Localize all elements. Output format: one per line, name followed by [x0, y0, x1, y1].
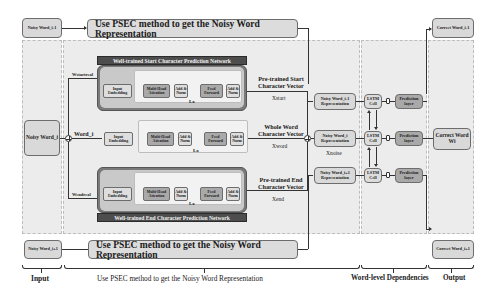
start-output-var: Xstart	[272, 95, 285, 101]
start-lx: Lx	[189, 99, 195, 104]
connector	[376, 147, 377, 164]
start-output-text: Pre-trained Start Character Vector	[258, 75, 304, 89]
brace-tick	[393, 269, 394, 273]
lstm-cell-label: LSTM Cell	[365, 134, 381, 143]
connector	[376, 110, 377, 127]
repr-prev: Noisy Word_i-1 Representation	[314, 93, 356, 110]
arrow-up	[367, 110, 371, 113]
repr-prev-label: Noisy Word_i-1 Representation	[315, 97, 355, 106]
lstm-cell-next: LSTM Cell	[364, 168, 382, 183]
connector	[72, 138, 102, 139]
connector	[423, 138, 433, 139]
trunk	[68, 78, 69, 135]
footer-psec: Use PSEC method to get the Noisy Word Re…	[97, 274, 263, 283]
brace-tick	[204, 269, 205, 273]
start-multi-head-attention: Multi-Head Attention	[143, 84, 170, 98]
start-output-label: Pre-trained Start Character Vector	[250, 76, 312, 90]
psec-bar-top: Use PSEC method to get the Noisy Word Re…	[87, 19, 298, 38]
input-current-word: Noisy Word_i	[24, 120, 60, 156]
connector	[356, 175, 364, 176]
arrow-line	[62, 28, 86, 29]
end-feed-forward: Feed Forward	[200, 187, 223, 201]
word-multi-head-attention: Multi-Head Attention	[147, 132, 174, 146]
end-output-label: Pre-trained End Character Vector	[250, 177, 312, 191]
connector	[247, 91, 261, 92]
lstm-cell-label: LSTM Cell	[365, 97, 381, 106]
repr-current-label: Noisy Word_i Representation	[315, 134, 355, 143]
start-network-title: Well-trained Start Character Prediction …	[97, 56, 247, 65]
output-current-word: Correct Word Wi	[433, 128, 471, 150]
output-next-label: Correct Word_i+1	[436, 247, 470, 252]
prediction-label: Prediction layer	[396, 97, 422, 106]
end-output-text: Pre-trained End Character Vector	[258, 176, 304, 190]
connector	[369, 150, 370, 167]
prediction-label: Prediction layer	[396, 134, 422, 143]
end-input-embedding: Input Embedding	[103, 187, 132, 201]
lstm-cell-label: LSTM Cell	[365, 171, 381, 180]
prediction-label: Prediction layer	[396, 171, 422, 180]
start-input-embedding: Input Embedding	[103, 84, 132, 98]
brace-word-level	[361, 265, 427, 269]
brace-tick	[451, 269, 452, 273]
lstm-cell-current: LSTM Cell	[364, 131, 382, 146]
trunk	[68, 142, 69, 198]
arrow-down	[374, 164, 378, 167]
branch-start-label: Wstartreal	[72, 72, 93, 77]
connector	[308, 175, 313, 176]
connector	[248, 138, 304, 139]
end-lx: Lx	[189, 201, 195, 206]
end-network-title: Well-trained End Character Prediction Ne…	[97, 213, 247, 222]
connector	[382, 175, 386, 176]
connector	[62, 249, 88, 250]
prediction-layer-next: Prediction layer	[395, 168, 423, 183]
start-feed-forward: Feed Forward	[200, 84, 223, 98]
lstm-cell-prev: LSTM Cell	[364, 94, 382, 109]
start-add-norm-2: Add & Norm	[226, 84, 240, 98]
word-output-text: Whole Word Character Vector	[258, 123, 304, 137]
end-add-norm-1: Add & Norm	[174, 187, 188, 201]
end-output-var: Xend	[272, 196, 284, 202]
footer-word-level: Word-level Dependencies	[351, 274, 429, 282]
connector	[261, 91, 308, 92]
connector	[308, 101, 313, 102]
word-output-var: Xword	[272, 143, 287, 149]
connector	[356, 138, 364, 139]
connector	[311, 138, 314, 139]
input-prev-label: Noisy Word_i-1	[28, 26, 57, 31]
connector	[308, 175, 309, 228]
branch-end-label: Wendreal	[72, 192, 91, 197]
end-add-norm-2: Add & Norm	[226, 187, 240, 201]
connector	[382, 138, 386, 139]
connector	[298, 28, 308, 29]
psec-bar-bottom-label: Use PSEC method to get the Noisy Word Re…	[96, 240, 297, 260]
word-feed-forward: Feed Forward	[204, 132, 227, 146]
concat-node-right	[304, 135, 311, 142]
repr-next: Noisy Word_i+1 Representation	[314, 167, 356, 184]
psec-bar-top-label: Use PSEC method to get the Noisy Word Re…	[95, 19, 297, 39]
repr-current: Noisy Word_i Representation	[314, 130, 356, 147]
repr-current-var: Xnoise	[326, 150, 342, 156]
input-current-label: Noisy Word_i	[26, 135, 58, 141]
connector	[356, 101, 364, 102]
connector	[308, 228, 309, 249]
output-prev-label: Correct Word_i-1	[437, 26, 470, 31]
arrow-down	[374, 127, 378, 130]
output-current-label: Correct Word Wi	[434, 133, 470, 145]
footer-output: Output	[443, 274, 465, 282]
end-multi-head-attention: Multi-Head Attention	[143, 187, 170, 201]
input-next-word: Noisy Word_i+1	[24, 240, 62, 259]
input-next-label: Noisy Word_i+1	[28, 247, 58, 252]
output-next-word: Correct Word_i+1	[432, 240, 474, 259]
arrow-head	[429, 27, 432, 31]
branch-word-label: Word_i	[74, 131, 93, 137]
connector	[426, 175, 427, 229]
output-prev-word: Correct Word_i-1	[432, 18, 474, 38]
footer-input: Input	[31, 274, 49, 283]
arrow-head	[429, 227, 432, 231]
word-input-embedding: Input Embedding	[104, 132, 133, 146]
connector	[247, 190, 308, 191]
prediction-layer-current: Prediction layer	[395, 131, 423, 146]
repr-next-label: Noisy Word_i+1 Representation	[315, 171, 355, 180]
concat-node-left	[65, 135, 72, 142]
word-lx: Lx	[193, 148, 199, 153]
